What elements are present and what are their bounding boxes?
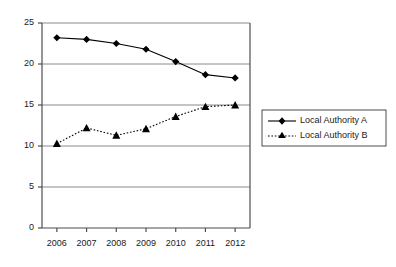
data-point-marker (202, 71, 209, 78)
y-tick-label: 15 (0, 99, 34, 109)
data-series-layer (53, 34, 239, 147)
y-tick-label: 20 (0, 58, 34, 68)
line-chart: 0510152025 2006200720082009201020112012 … (0, 0, 396, 267)
y-tick-label: 5 (0, 181, 34, 191)
series-line (57, 105, 235, 144)
data-point-marker (172, 112, 180, 119)
data-point-marker (83, 36, 90, 43)
series-b (53, 101, 239, 147)
y-tick-label: 10 (0, 140, 34, 150)
data-point-marker (83, 124, 91, 131)
y-tick-label: 25 (0, 17, 34, 27)
data-point-marker (53, 34, 60, 41)
legend-label-local-authority-a: Local Authority A (300, 115, 367, 125)
data-point-marker (142, 125, 150, 132)
data-point-marker (142, 46, 149, 53)
y-tick-label: 0 (0, 222, 34, 232)
data-point-marker (232, 74, 239, 81)
legend-label-local-authority-b: Local Authority B (300, 130, 368, 140)
series-a (53, 34, 238, 81)
x-axis-ticks (57, 228, 235, 232)
x-tick-label: 2012 (217, 238, 253, 248)
series-line (57, 38, 235, 78)
data-point-marker (53, 140, 61, 147)
data-point-marker (113, 40, 120, 47)
